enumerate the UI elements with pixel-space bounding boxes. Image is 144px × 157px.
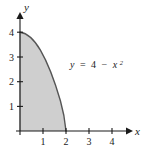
y-tick-label-2: 2 — [9, 76, 14, 87]
curve-equation-label: y = 4 − x 2 — [69, 59, 124, 71]
equation-minus: − — [102, 59, 108, 70]
x-tick-label-1: 1 — [41, 136, 46, 147]
y-tick-label-3: 3 — [9, 52, 14, 63]
equation-variable: x — [112, 59, 118, 70]
y-tick-label-1: 1 — [9, 101, 14, 112]
equation-constant: 4 — [91, 59, 96, 70]
y-axis-arrowhead — [16, 12, 23, 19]
graph-figure: 1 2 3 4 1 2 3 4 x y y = 4 − x 2 — [0, 0, 144, 157]
x-tick-label-4: 4 — [110, 136, 115, 147]
shaded-area-under-curve — [20, 32, 66, 131]
equation-equals: = — [80, 59, 86, 70]
y-axis-label: y — [23, 1, 29, 13]
x-tick-label-3: 3 — [87, 136, 92, 147]
equation-lhs: y — [69, 59, 75, 70]
plot-canvas: 1 2 3 4 1 2 3 4 x y y = 4 − x 2 — [0, 0, 144, 157]
x-tick-label-2: 2 — [64, 136, 69, 147]
y-tick-label-4: 4 — [9, 27, 14, 38]
x-axis-label: x — [134, 125, 140, 137]
x-axis-arrowhead — [126, 127, 133, 134]
equation-exponent: 2 — [120, 59, 124, 66]
